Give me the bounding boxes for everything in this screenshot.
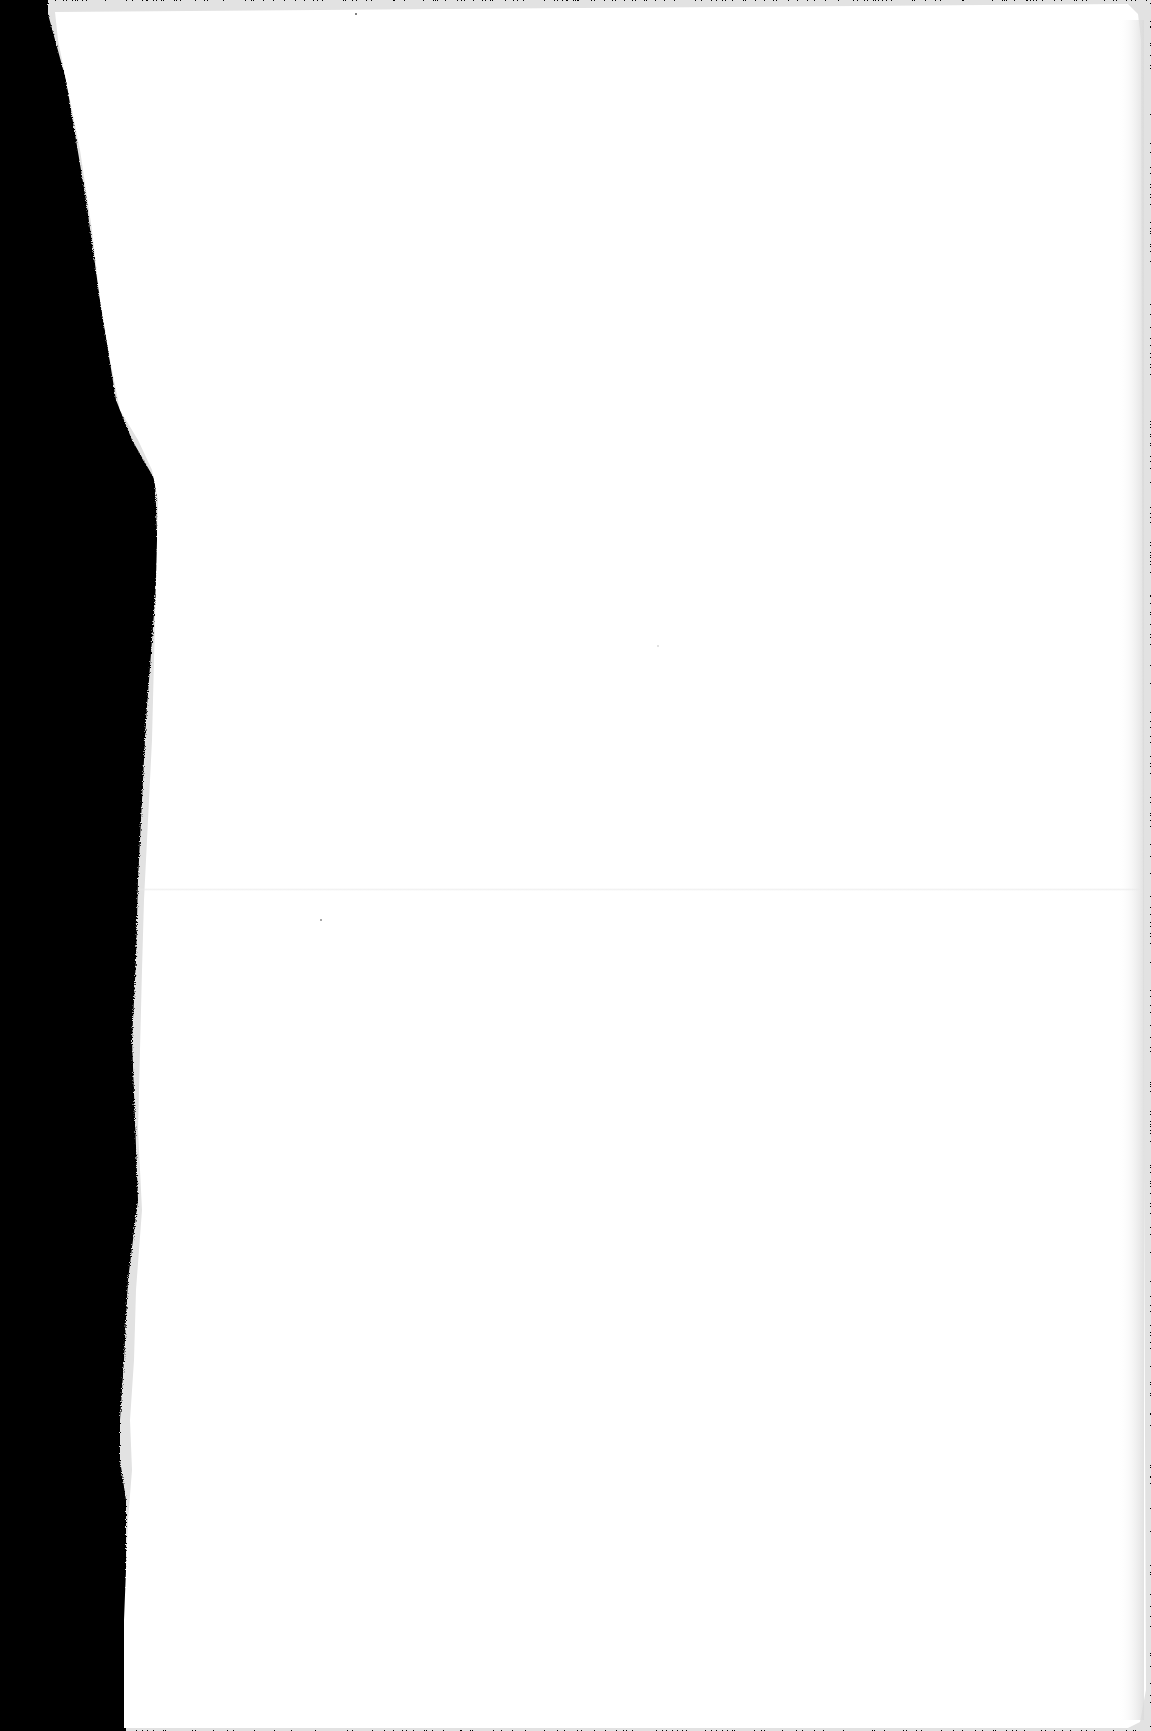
dust-speck xyxy=(320,919,322,921)
dust-speck xyxy=(657,645,659,647)
right-edge-shadow xyxy=(1118,20,1144,1720)
paper-fold-line xyxy=(140,888,1140,891)
dust-speck xyxy=(355,13,357,15)
scan-canvas xyxy=(0,0,1151,1731)
paper-sheet xyxy=(55,4,1146,1728)
paper-page xyxy=(0,0,1151,1731)
